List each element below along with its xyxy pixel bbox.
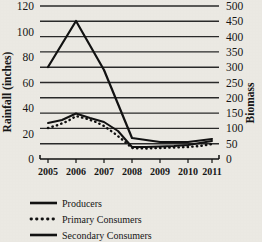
- y-label-right-250: 250: [226, 77, 244, 89]
- legend-label-secondary-consumers: Secondary Consumers: [62, 230, 152, 241]
- y-label-right-50: 50: [226, 138, 238, 150]
- y-label-right-150: 150: [226, 107, 244, 119]
- y-label-left-80: 80: [23, 51, 35, 63]
- chart-container: Rainfall (inches) Biomass: [0, 0, 262, 242]
- y-axis-right-labels: 500 450 400 350 300 250 200 150 100 50 0: [226, 0, 244, 165]
- y-label-right-500: 500: [226, 0, 244, 12]
- legend-label-producers: Producers: [62, 198, 102, 209]
- y-label-right-100: 100: [226, 122, 244, 134]
- y-label-left-120: 120: [17, 0, 35, 12]
- x-label-2007: 2007: [94, 166, 114, 177]
- y-label-left-60: 60: [23, 77, 35, 89]
- y-label-right-0: 0: [226, 153, 232, 165]
- y-label-left-100: 100: [17, 26, 35, 38]
- y-axis-title-right: Biomass: [244, 82, 256, 123]
- y-label-left-20: 20: [23, 128, 35, 140]
- y-label-right-400: 400: [226, 31, 244, 43]
- legend-item-primary-consumers: Primary Consumers: [31, 214, 142, 225]
- legend-item-producers: Producers: [30, 198, 102, 209]
- x-label-2010: 2010: [178, 166, 198, 177]
- gridlines: [40, 6, 219, 144]
- y-label-right-350: 350: [226, 46, 244, 58]
- line-chart: Rainfall (inches) Biomass: [0, 0, 262, 242]
- legend-item-secondary-consumers: Secondary Consumers: [30, 230, 152, 241]
- chart-legend: Producers Primary Consumers Secondary Co…: [30, 198, 152, 241]
- x-label-2011: 2011: [202, 166, 221, 177]
- y-label-left-0: 0: [28, 153, 34, 165]
- y-label-right-300: 300: [226, 61, 244, 73]
- x-label-2006: 2006: [66, 166, 86, 177]
- legend-label-primary-consumers: Primary Consumers: [62, 214, 142, 225]
- x-axis-labels: 2005 2006 2007 2008 2009 2010 2011: [38, 166, 222, 177]
- y-label-right-200: 200: [226, 92, 244, 104]
- x-label-2009: 2009: [150, 166, 170, 177]
- x-label-2005: 2005: [38, 166, 58, 177]
- y-axis-title-left: Rainfall (inches): [1, 51, 14, 132]
- series-line-producers: [48, 21, 212, 142]
- y-label-left-40: 40: [23, 102, 35, 114]
- y-label-right-450: 450: [226, 15, 244, 27]
- x-label-2008: 2008: [122, 166, 142, 177]
- y-axis-left-labels: 120 100 80 60 40 20 0: [17, 0, 35, 165]
